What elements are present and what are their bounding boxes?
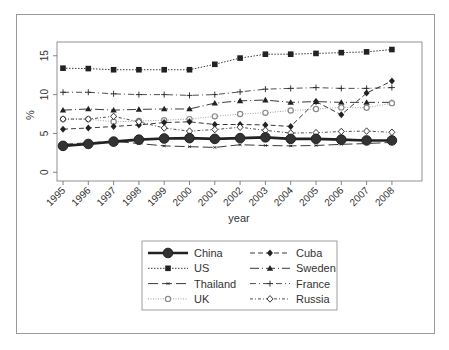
- open-circle-grey-marker-icon: [165, 296, 170, 301]
- y-tick-label: 0: [39, 169, 50, 175]
- plus-marker-icon: [288, 85, 294, 91]
- filled-circle-large-marker-icon: [159, 134, 169, 144]
- y-axis: 051015: [39, 50, 57, 175]
- legend-label: Cuba: [296, 247, 323, 259]
- filled-square-marker-icon: [237, 55, 243, 61]
- filled-circle-large-marker-icon: [58, 141, 68, 151]
- x-axis-label: year: [228, 212, 250, 224]
- filled-square-marker-icon: [263, 51, 269, 57]
- open-circle-grey-marker-icon: [288, 108, 293, 113]
- filled-circle-large-marker-icon: [235, 133, 245, 143]
- legend-label: China: [194, 247, 224, 259]
- open-diamond-marker-icon: [338, 128, 344, 135]
- filled-square-marker-icon: [389, 47, 395, 53]
- open-circle-grey-marker-icon: [238, 111, 243, 116]
- plus-marker-icon: [313, 85, 319, 91]
- open-circle-grey-marker-icon: [263, 110, 268, 115]
- filled-circle-large-marker-icon: [337, 135, 347, 145]
- legend-label: UK: [194, 293, 210, 305]
- filled-triangle-marker-icon: [262, 97, 268, 103]
- filled-circle-large-marker-icon: [185, 133, 195, 143]
- filled-triangle-marker-icon: [136, 106, 142, 112]
- series-us: [60, 47, 395, 73]
- series-group: [58, 47, 397, 151]
- plus-marker-icon: [212, 92, 218, 98]
- plus-marker-icon: [262, 86, 268, 92]
- filled-circle-large-marker-icon: [134, 135, 144, 145]
- x-tick-label: 2005: [297, 184, 321, 208]
- filled-square-marker-icon: [165, 266, 171, 272]
- x-tick-label: 2004: [272, 184, 296, 208]
- open-circle-grey-marker-icon: [364, 105, 369, 110]
- open-diamond-marker-icon: [212, 126, 218, 133]
- x-tick-label: 1995: [44, 184, 68, 208]
- filled-diamond-marker-icon: [60, 126, 66, 133]
- filled-square-marker-icon: [212, 61, 218, 67]
- filled-diamond-marker-icon: [389, 78, 395, 85]
- filled-square-marker-icon: [86, 66, 92, 72]
- filled-diamond-marker-icon: [364, 90, 370, 97]
- x-tick-label: 2007: [348, 184, 372, 208]
- filled-square-marker-icon: [161, 67, 167, 73]
- line-chart: 051015 199519961997199819992000200120022…: [17, 15, 436, 335]
- legend-label: France: [296, 278, 330, 290]
- filled-circle-large-marker-icon: [286, 134, 296, 144]
- x-tick-label: 1997: [95, 184, 119, 208]
- x-tick-label: 1996: [69, 184, 93, 208]
- filled-square-marker-icon: [136, 67, 142, 73]
- filled-square-marker-icon: [288, 51, 294, 57]
- y-tick-label: 10: [39, 89, 50, 101]
- filled-circle-large-marker-icon: [311, 134, 321, 144]
- plus-marker-icon: [389, 85, 395, 91]
- filled-diamond-marker-icon: [338, 111, 344, 118]
- plus-marker-icon: [338, 85, 344, 91]
- filled-circle-large-marker-icon: [84, 139, 94, 149]
- x-tick-label: 2000: [170, 184, 194, 208]
- y-tick-label: 15: [39, 50, 50, 62]
- filled-circle-large-marker-icon: [387, 136, 397, 146]
- legend-label: Sweden: [296, 262, 336, 274]
- filled-square-marker-icon: [60, 65, 66, 71]
- x-tick-label: 2008: [373, 184, 397, 208]
- open-diamond-marker-icon: [389, 129, 395, 136]
- plus-marker-icon: [161, 92, 167, 98]
- small-x-marker-icon: [213, 146, 216, 148]
- filled-square-marker-icon: [339, 50, 345, 56]
- x-tick-label: 2006: [322, 184, 346, 208]
- legend: ChinaCubaUSSwedenThailandFranceUKRussia: [142, 241, 337, 310]
- plus-marker-icon: [111, 91, 117, 97]
- filled-circle-large-marker-icon: [109, 137, 119, 147]
- filled-triangle-marker-icon: [85, 106, 91, 112]
- filled-circle-large-marker-icon: [362, 136, 372, 146]
- x-tick-label: 2003: [246, 184, 270, 208]
- x-tick-label: 1998: [120, 184, 144, 208]
- open-circle-grey-marker-icon: [339, 105, 344, 110]
- x-tick-label: 2002: [221, 184, 245, 208]
- filled-circle-large-marker-icon: [261, 133, 271, 143]
- legend-label: US: [194, 262, 209, 274]
- filled-triangle-marker-icon: [212, 100, 218, 106]
- series-sweden: [60, 97, 395, 113]
- open-circle-grey-marker-icon: [212, 114, 217, 119]
- filled-square-marker-icon: [313, 51, 319, 57]
- open-diamond-marker-icon: [111, 113, 117, 120]
- y-tick-label: 5: [39, 130, 50, 136]
- legend-label: Russia: [296, 293, 331, 305]
- filled-diamond-marker-icon: [288, 123, 294, 130]
- x-tick-label: 1999: [145, 184, 169, 208]
- series-france: [60, 85, 395, 99]
- open-diamond-marker-icon: [364, 128, 370, 135]
- plus-marker-icon: [60, 89, 66, 95]
- figure-frame: 051015 199519961997199819992000200120022…: [16, 14, 435, 334]
- x-tick-label: 2001: [196, 184, 220, 208]
- y-axis-label: %: [24, 110, 36, 120]
- filled-square-marker-icon: [364, 49, 370, 55]
- open-circle-grey-marker-icon: [389, 101, 394, 106]
- open-diamond-marker-icon: [161, 125, 167, 132]
- open-circle-grey-marker-icon: [313, 106, 318, 111]
- plus-marker-icon: [187, 92, 193, 98]
- x-axis: 1995199619971998199920002001200220032004…: [44, 181, 397, 208]
- series-china: [58, 133, 397, 151]
- legend-label: Thailand: [194, 278, 236, 290]
- filled-circle-large-marker-icon: [210, 134, 220, 144]
